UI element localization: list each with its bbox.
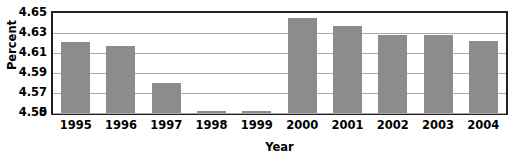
y-tick-label: 4.55 xyxy=(19,107,47,118)
y-tick-label: 4.61 xyxy=(19,47,47,58)
x-axis-tick-labels: 1995199619971998199920002001200220032004 xyxy=(51,118,508,134)
bar xyxy=(378,35,407,113)
gridline xyxy=(53,113,506,114)
bar xyxy=(106,46,135,113)
bar xyxy=(61,42,90,113)
bar xyxy=(288,18,317,113)
bar xyxy=(152,83,181,113)
bars-layer xyxy=(53,13,506,113)
bar xyxy=(242,111,271,113)
x-axis-title: Year xyxy=(51,140,508,154)
x-tick-label: 2001 xyxy=(325,118,370,132)
x-tick-label: 2000 xyxy=(280,118,325,132)
y-tick-label: 4.57 xyxy=(19,87,47,98)
y-axis-tick-labels: 04.554.574.594.614.634.65 xyxy=(0,0,50,125)
x-tick-label: 2002 xyxy=(370,118,415,132)
bar xyxy=(424,35,453,113)
bar xyxy=(333,26,362,113)
bar xyxy=(197,111,226,113)
x-tick-label: 1998 xyxy=(189,118,234,132)
bar-chart: Percent 04.554.574.594.614.634.65 199519… xyxy=(0,0,525,162)
plot-area xyxy=(51,11,508,115)
x-tick-label: 1996 xyxy=(98,118,143,132)
x-tick-label: 2004 xyxy=(461,118,506,132)
x-tick-label: 1995 xyxy=(53,118,98,132)
y-tick-label: 4.65 xyxy=(19,7,47,18)
bar xyxy=(469,41,498,113)
y-tick-label: 4.59 xyxy=(19,67,47,78)
y-tick-label: 4.63 xyxy=(19,27,47,38)
x-tick-label: 1997 xyxy=(144,118,189,132)
x-tick-label: 1999 xyxy=(234,118,279,132)
x-tick-label: 2003 xyxy=(415,118,460,132)
